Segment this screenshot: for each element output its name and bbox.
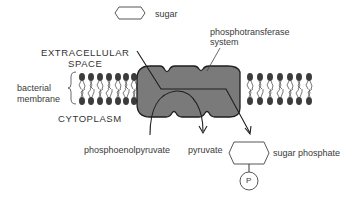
- sugar-phosphate-label: sugar phosphate: [273, 148, 340, 158]
- bacterial-membrane-label-line1: bacterial: [17, 83, 51, 93]
- pyruvate-label: pyruvate: [188, 145, 223, 155]
- phosphoenolpyruvate-label: phosphoenolpyruvate: [84, 145, 170, 155]
- phosphotransferase-label-line2: system: [210, 37, 239, 47]
- phosphate-symbol: P: [246, 176, 251, 186]
- lipid-bilayer-left: [79, 73, 137, 105]
- sugar-label: sugar: [155, 9, 178, 19]
- membrane-brace-icon: [68, 72, 76, 104]
- bacterial-membrane-label-line2: membrane: [17, 94, 60, 104]
- sugar-hexagon: [115, 7, 145, 19]
- phosphotransferase-protein: [137, 66, 240, 117]
- lipid-bilayer-right: [247, 73, 312, 105]
- extracellular-label-line1: EXTRACELLULAR: [41, 48, 130, 58]
- extracellular-label-line2: SPACE: [68, 59, 103, 69]
- cytoplasm-label: CYTOPLASM: [58, 114, 122, 124]
- sugar-phosphate-hexagon: [229, 142, 269, 164]
- phosphotransferase-label-line1: phosphotransferase: [210, 27, 290, 37]
